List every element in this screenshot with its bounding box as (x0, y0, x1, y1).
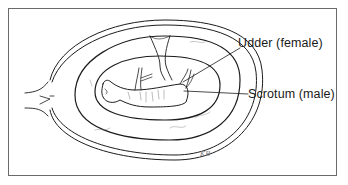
umbilical-cord (150, 36, 165, 80)
fetus-foreleg (135, 68, 142, 90)
udder-leader-line (183, 48, 240, 82)
label-scrotum: Scrotum (male) (248, 87, 335, 101)
cervix-line-upper (25, 82, 48, 93)
label-udder: Udder (female) (238, 36, 323, 50)
artist-signature: KB (200, 150, 210, 158)
cervix-line-lower (25, 108, 48, 116)
cervix-plug (40, 96, 50, 104)
uterus-inner-wall (52, 25, 256, 155)
fetus (102, 80, 188, 107)
uterus-outer-wall (50, 20, 263, 160)
